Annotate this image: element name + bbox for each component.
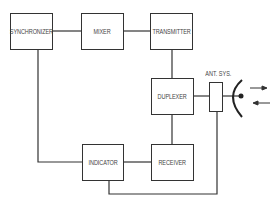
antenna-dish-icon xyxy=(233,80,242,117)
mixer-label: MIXER xyxy=(94,28,111,35)
indicator-block: INDICATOR xyxy=(82,144,124,181)
antenna-system-block xyxy=(209,82,223,112)
transmitter-label: TRANSMITTER xyxy=(152,28,190,35)
duplexer-label: DUPLEXER xyxy=(158,93,187,100)
antenna-system-label: ANT. SYS. xyxy=(205,70,231,77)
radar-block-diagram: SYNCHRONIZER MIXER TRANSMITTER DUPLEXER … xyxy=(0,0,276,205)
synchronizer-label: SYNCHRONIZER xyxy=(10,28,53,35)
indicator-label: INDICATOR xyxy=(88,159,117,166)
receiver-label: RECEIVER xyxy=(159,159,187,166)
transmitter-block: TRANSMITTER xyxy=(150,13,193,50)
duplexer-block: DUPLEXER xyxy=(151,78,194,115)
synchronizer-block: SYNCHRONIZER xyxy=(10,13,53,50)
mixer-block: MIXER xyxy=(81,13,124,50)
receiver-block: RECEIVER xyxy=(151,144,194,181)
